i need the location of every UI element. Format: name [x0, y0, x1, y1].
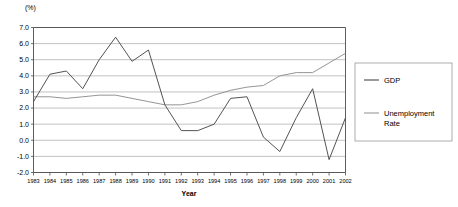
x-axis-tick-label: 1984	[44, 178, 56, 184]
y-axis-tick-label: 1.0	[19, 121, 29, 128]
y-axis-tick-label: 6.0	[19, 40, 29, 47]
x-axis-tick-labels: 1983198419851986198719881989199019911992…	[27, 178, 351, 184]
x-axis-tick-label: 1998	[274, 178, 286, 184]
y-axis-tick-label: 7.0	[19, 24, 29, 31]
x-axis-tick-label: 1988	[109, 178, 121, 184]
y-axis-tick-label: -2.0	[17, 169, 29, 176]
x-axis-tick-label: 1989	[126, 178, 138, 184]
x-axis-tick-label: 1983	[27, 178, 39, 184]
y-axis-tick-label: 5.0	[19, 56, 29, 63]
y-axis-tick-label: 2.0	[19, 104, 29, 111]
x-axis-tick-label: 2001	[323, 178, 335, 184]
x-axis-tick-label: 1987	[93, 178, 105, 184]
gdp-unemployment-line-chart: (%) 7.06.05.04.03.02.01.00.0-1.0-2.0 198…	[0, 0, 458, 207]
x-axis-tick-label: 1993	[191, 178, 203, 184]
series-line-gdp	[34, 37, 346, 159]
x-axis-tick-label: 2002	[339, 178, 351, 184]
y-axis-tick-label: 4.0	[19, 72, 29, 79]
x-axis-tick-label: 1985	[60, 178, 72, 184]
x-axis-tick-label: 1991	[159, 178, 171, 184]
legend-label-unemployment-rate-line2: Rate	[384, 119, 400, 128]
legend-border	[355, 63, 452, 141]
gridlines-group	[31, 28, 346, 173]
legend-label-unemployment-rate-line1: Unemployment	[384, 109, 435, 118]
x-axis-tick-label: 1990	[142, 178, 154, 184]
x-axis-tick-label: 1995	[224, 178, 236, 184]
y-axis-tick-label: 0.0	[19, 137, 29, 144]
x-axis-tick-label: 1999	[290, 178, 302, 184]
x-axis-tick-label: 2000	[306, 178, 318, 184]
legend-label-gdp: GDP	[384, 76, 400, 85]
y-axis-tick-labels: 7.06.05.04.03.02.01.00.0-1.0-2.0	[17, 24, 29, 176]
legend: GDP Unemployment Rate	[355, 63, 452, 141]
x-axis-tick-label: 1996	[241, 178, 253, 184]
x-axis-tick-label: 1992	[175, 178, 187, 184]
y-axis-tick-label: 3.0	[19, 88, 29, 95]
y-axis-tick-label: -1.0	[17, 153, 29, 160]
x-axis-title: Year	[182, 190, 197, 197]
series-line-unemployment-rate	[34, 53, 346, 105]
chart-canvas: 7.06.05.04.03.02.01.00.0-1.0-2.0 1983198…	[0, 0, 458, 207]
x-axis-tick-label: 1994	[208, 178, 220, 184]
x-axis-tick-label: 1986	[77, 178, 89, 184]
x-axis-tick-label: 1997	[257, 178, 269, 184]
